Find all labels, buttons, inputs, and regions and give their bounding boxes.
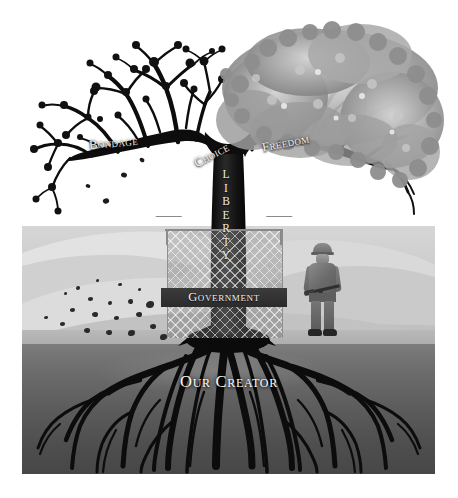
soldier-right-leg [324, 301, 334, 331]
dead-branches [34, 46, 222, 212]
government-label: Government [188, 290, 260, 305]
liberty-letter: E [222, 209, 229, 223]
fence-post [166, 229, 168, 245]
soldier-left-leg [311, 301, 321, 331]
withered-buds [30, 41, 226, 215]
liberty-letter: L [222, 168, 229, 182]
freedom-label: Freedom [261, 132, 311, 156]
liberty-letter: R [222, 222, 230, 236]
soldier-left-boot [308, 329, 322, 336]
government-banner: Government [161, 288, 287, 307]
soldier-figure [300, 243, 345, 339]
liberty-letter: I [224, 182, 228, 196]
liberty-label: L I B E R T Y [218, 168, 234, 263]
liberty-letter: T [222, 236, 229, 250]
falling-leaves [85, 157, 145, 204]
liberty-letter: B [222, 195, 230, 209]
barbed-wire-arm-left [155, 216, 190, 233]
foliage-canopy [216, 21, 444, 188]
liberty-letter: Y [222, 249, 230, 263]
soldier-right-boot [323, 329, 337, 336]
bondage-label: Bondage [88, 134, 138, 153]
illustration-canvas: Government Bondage Choice Freedom L I B … [0, 0, 458, 498]
fence-post [280, 229, 282, 245]
our-creator-label: Our Creator [0, 372, 458, 392]
choice-label: Choice [192, 140, 232, 171]
